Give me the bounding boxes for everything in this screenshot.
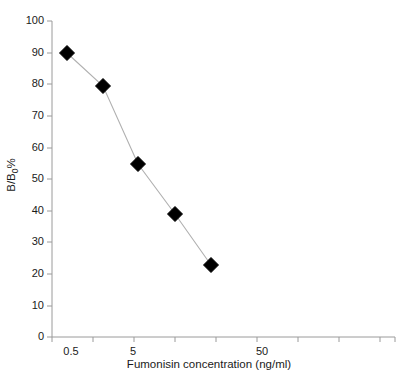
data-point-marker — [168, 207, 183, 222]
y-axis-tick-label: 80 — [2, 77, 44, 89]
x-axis-title: Fumonisin concentration (ng/ml) — [0, 358, 418, 370]
x-axis-tick-label: 0.5 — [46, 345, 96, 357]
y-axis-tick-label: 0 — [2, 330, 44, 342]
axes — [47, 21, 395, 342]
y-axis-tick-label: 30 — [2, 235, 44, 247]
y-axis-title-subscript: 0 — [10, 168, 20, 173]
y-axis-tick-label: 70 — [2, 109, 44, 121]
y-axis-tick-label: 90 — [2, 46, 44, 58]
x-axis-tick-label: 5 — [108, 345, 158, 357]
y-axis-tick-label: 100 — [2, 14, 44, 26]
x-axis-tick-label: 50 — [237, 345, 287, 357]
y-axis-tick-label: 20 — [2, 267, 44, 279]
chart-container: 1009080706050403020100 0.5550 B/B0% Fumo… — [0, 0, 418, 387]
y-axis-title-main: B/B — [5, 173, 17, 192]
y-axis-title-suffix: % — [5, 158, 17, 168]
data-point-marker — [204, 258, 219, 273]
y-axis-title: B/B0% — [5, 140, 17, 210]
plot-area — [0, 0, 418, 387]
data-series — [60, 46, 219, 273]
y-axis-tick-label: 10 — [2, 299, 44, 311]
data-point-marker — [131, 157, 146, 172]
